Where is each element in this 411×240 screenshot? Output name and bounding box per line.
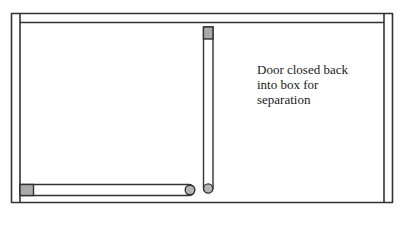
- annotation-line-3: separation: [257, 92, 367, 107]
- annotation-line-2: into box for: [257, 77, 367, 92]
- horizontal-door: [20, 185, 195, 196]
- annotation-label: Door closed back into box for separation: [257, 62, 367, 107]
- vertical-door-hinge-icon: [204, 184, 213, 193]
- vertical-door-cap: [204, 27, 214, 39]
- horizontal-door-cap: [20, 185, 34, 196]
- annotation-line-1: Door closed back: [257, 62, 367, 77]
- vertical-door: [204, 27, 214, 193]
- horizontal-door-hinge-icon: [185, 185, 195, 195]
